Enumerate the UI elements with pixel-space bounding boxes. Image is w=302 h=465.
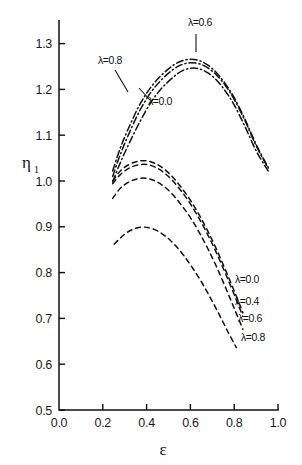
y-axis-tick-labels: 0.50.60.70.80.91.01.11.21.3 — [36, 37, 53, 417]
ann-upper-lambda-0.6: λ=0.6 — [188, 16, 213, 28]
figure-container: 0.50.60.70.80.91.01.11.21.3 0.00.20.40.6… — [0, 0, 302, 465]
y-tick-label: 1.3 — [36, 37, 53, 51]
x-tick-label: 0.8 — [226, 416, 243, 430]
y-tick-label: 0.7 — [36, 312, 53, 326]
y-axis-ticks — [59, 44, 65, 410]
axes: 0.50.60.70.80.91.01.11.21.3 0.00.20.40.6… — [36, 21, 287, 430]
eta1-vs-epsilon-chart: 0.50.60.70.80.91.01.11.21.3 0.00.20.40.6… — [0, 0, 302, 465]
curve-lower-lambda-0.0 — [113, 161, 243, 313]
ann-lower-lambda-0.8: λ=0.8 — [241, 331, 266, 343]
x-axis-tick-labels: 0.00.20.40.60.81.0 — [51, 416, 287, 430]
ann-lower-lambda-0.0: λ=0.0 — [235, 273, 260, 285]
y-tick-label: 0.6 — [36, 358, 53, 372]
ann-upper-lambda-0.8-leader — [115, 70, 128, 92]
y-axis-title-subscript: 1 — [34, 164, 39, 175]
y-tick-label: 0.9 — [36, 220, 53, 234]
x-tick-label: 0.0 — [51, 416, 68, 430]
axis-frame — [59, 21, 278, 410]
x-tick-label: 0.6 — [182, 416, 199, 430]
y-tick-label: 1.0 — [36, 175, 53, 189]
x-axis-title: ε — [159, 440, 166, 459]
y-tick-label: 1.1 — [36, 129, 53, 143]
curve-lower-lambda-0.8 — [114, 227, 236, 348]
x-tick-label: 1.0 — [270, 416, 287, 430]
x-tick-label: 0.4 — [138, 416, 155, 430]
curve-lower-lambda-0.4 — [113, 164, 243, 316]
ann-upper-lambda-0.0: λ=0.0 — [148, 95, 173, 107]
curve-lower-lambda-0.6 — [113, 178, 243, 329]
ann-lower-lambda-0.4: λ=0.4 — [235, 295, 260, 307]
x-axis-ticks — [103, 404, 278, 410]
ann-upper-lambda-0.8: λ=0.8 — [98, 54, 123, 66]
curve-upper-lambda-0.8 — [113, 59, 268, 171]
y-axis-title: η — [22, 153, 31, 172]
ann-lower-lambda-0.6: λ=0.6 — [238, 312, 263, 324]
y-tick-label: 1.2 — [36, 83, 53, 97]
y-tick-label: 0.8 — [36, 266, 53, 280]
x-tick-label: 0.2 — [95, 416, 112, 430]
